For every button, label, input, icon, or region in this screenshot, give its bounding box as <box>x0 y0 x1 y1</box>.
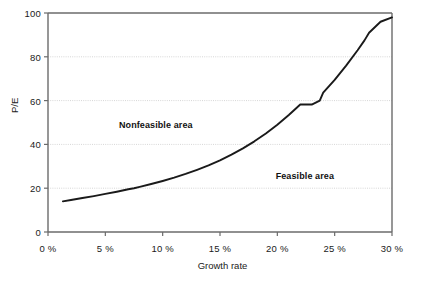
x-axis-title: Growth rate <box>180 260 265 271</box>
y-tick-label: 100 <box>8 8 41 19</box>
area-annotation-label: Nonfeasible area <box>119 120 193 130</box>
x-tick-label: 10 % <box>151 243 173 254</box>
x-tick-label: 20 % <box>266 243 288 254</box>
y-axis-title: P/E <box>9 98 20 113</box>
y-tick-label: 20 <box>8 183 41 194</box>
data-series-line <box>63 17 392 201</box>
plot-frame <box>48 13 392 232</box>
y-tick-label: 0 <box>8 227 41 238</box>
x-tick-label: 25 % <box>323 243 345 254</box>
x-tick-label: 5 % <box>97 243 114 254</box>
x-tick-label: 0 % <box>40 243 57 254</box>
area-annotation-label: Feasible area <box>276 171 334 181</box>
x-tick-label: 15 % <box>209 243 231 254</box>
y-tick-label: 40 <box>8 139 41 150</box>
chart-plot-svg <box>0 0 421 281</box>
y-tick-label: 80 <box>8 51 41 62</box>
axis-ticks <box>44 13 392 236</box>
x-tick-label: 30 % <box>381 243 403 254</box>
chart-figure: 020406080100 0 %5 %10 %15 %20 %25 %30 % … <box>0 0 421 281</box>
gridlines <box>48 57 392 188</box>
